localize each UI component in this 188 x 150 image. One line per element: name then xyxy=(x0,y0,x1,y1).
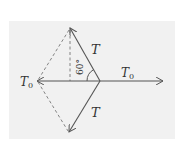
label-right-T0: T0 xyxy=(121,66,134,81)
label-left-T0: T0 xyxy=(20,75,33,90)
label-angle-60: 60° xyxy=(75,59,85,75)
label-upper-T: T xyxy=(91,42,101,57)
label-lower-T: T xyxy=(91,105,101,120)
force-diagram: T T T0 T0 60° xyxy=(0,0,188,150)
dashed-upper-left xyxy=(38,30,69,80)
dashed-lower-left xyxy=(38,82,68,131)
angle-arc xyxy=(87,70,94,81)
